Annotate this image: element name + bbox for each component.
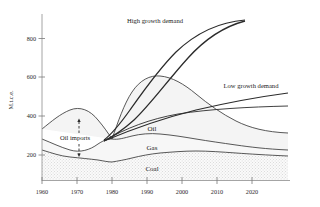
y-tick-label-800: 800 [27,35,36,42]
energy-forecast-chart: 800 600 400 200 M.t.c.e. 1960 1970 1980 … [0,0,320,207]
x-tick-label-1990: 1990 [141,188,153,195]
y-axis-title: M.t.c.e. [7,90,14,109]
x-tick-label-1980: 1980 [106,188,118,195]
y-tick-label-200: 200 [27,151,36,158]
y-tick-label-600: 600 [27,73,36,80]
x-tick-label-2020: 2020 [246,188,258,195]
x-tick-label-1960: 1960 [36,188,48,195]
series-label-coal: Coal [145,165,158,173]
chart-root: 800 600 400 200 M.t.c.e. 1960 1970 1980 … [0,0,320,207]
label-oil-imports: Oil imports [60,134,91,141]
x-tick-label-2010: 2010 [211,188,223,195]
x-tick-label-2000: 2000 [176,188,188,195]
series-label-oil: Oil [148,125,157,133]
x-tick-label-1970: 1970 [71,188,83,195]
label-low-growth-demand: Low growth demand [224,82,280,89]
series-label-gas: Gas [147,144,158,152]
y-tick-label-400: 400 [27,112,36,119]
label-high-growth-demand: High growth demand [127,17,184,24]
